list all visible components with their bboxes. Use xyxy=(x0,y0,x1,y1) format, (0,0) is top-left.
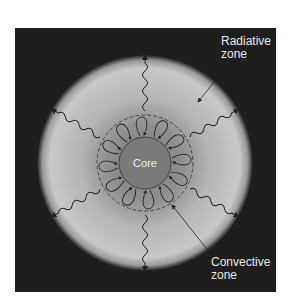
core-label: Core xyxy=(119,157,171,169)
radiative-zone-label: Radiative zone xyxy=(221,35,271,61)
convective-zone-label: Convective zone xyxy=(211,256,270,282)
